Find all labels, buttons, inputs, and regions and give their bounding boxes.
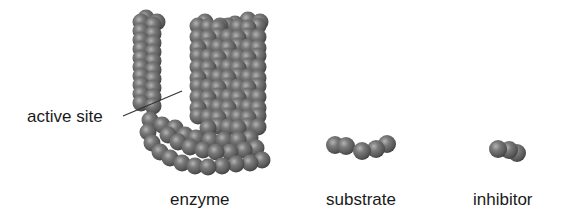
inhibitor-label: inhibitor: [473, 190, 533, 210]
substrate-molecule: [326, 135, 396, 160]
active-site-label: active site: [27, 107, 103, 127]
enzyme-label: enzyme: [170, 190, 230, 210]
enzyme-molecule: [133, 10, 271, 176]
substrate-label: substrate: [326, 190, 396, 210]
inhibitor-molecule: [489, 140, 526, 162]
